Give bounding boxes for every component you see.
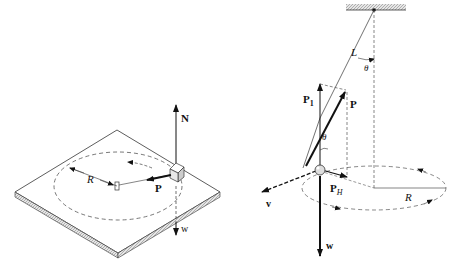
horizontal-component-arrow	[322, 170, 347, 177]
conical-pendulum-figure: L θ P1 P θ R PH v w	[262, 4, 446, 256]
weight-label-left: w	[181, 223, 189, 234]
radius-label-right: R	[404, 191, 412, 203]
physics-diagram: R w N P L θ	[0, 0, 455, 267]
weight-label-right: w	[326, 240, 334, 251]
radius-label-left: R	[86, 173, 94, 185]
angle-label-bob: θ	[322, 132, 327, 142]
turntable-figure: R w N P	[15, 105, 220, 258]
length-label: L	[350, 46, 357, 58]
pendulum-bob	[315, 165, 325, 175]
velocity-label: v	[266, 198, 271, 209]
velocity-arrow	[262, 171, 316, 192]
vertical-component-label: P1	[303, 93, 314, 108]
horizontal-component-label: PH	[330, 182, 344, 197]
centripetal-force-label: P	[155, 182, 162, 194]
tension-label: P	[350, 98, 357, 110]
angle-label-top: θ	[364, 63, 369, 73]
normal-force-label: N	[181, 112, 189, 124]
turntable-plate	[15, 130, 220, 253]
ceiling	[346, 4, 406, 10]
